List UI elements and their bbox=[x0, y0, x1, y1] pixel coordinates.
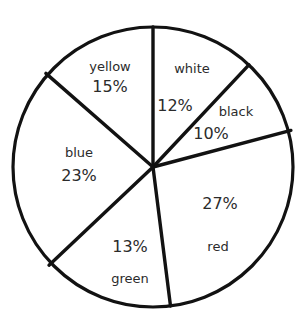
pie-chart: yellow 15% white 12% black 10% blue 23% … bbox=[0, 0, 307, 321]
pie-chart-svg bbox=[0, 0, 307, 321]
